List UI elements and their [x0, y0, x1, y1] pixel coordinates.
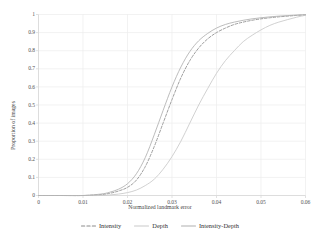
legend-line-swatch [81, 223, 96, 229]
y-tick-label: 0 [12, 192, 35, 198]
y-tick-label: 0.1 [12, 174, 35, 180]
legend-line-swatch [134, 223, 149, 229]
legend-label: Intensity [99, 222, 121, 229]
y-tick-label: 0.6 [12, 84, 35, 90]
chart-legend: IntensityDepthIntensity-Depth [0, 222, 320, 229]
legend-item-intensity[interactable]: Intensity [81, 222, 121, 229]
x-axis-title: Normalized landmark error [0, 204, 320, 210]
axis-tick-marks [36, 15, 306, 199]
y-tick-label: 0.9 [12, 29, 35, 35]
legend-item-intensity-depth[interactable]: Intensity-Depth [181, 222, 239, 229]
y-axis-title: Proportion of images [10, 101, 16, 150]
legend-item-depth[interactable]: Depth [134, 222, 168, 229]
chart-container: 00.10.20.30.40.50.60.70.80.91 00.010.020… [0, 0, 320, 242]
legend-line-swatch [181, 223, 196, 229]
legend-label: Depth [152, 222, 168, 229]
legend-label: Intensity-Depth [199, 222, 239, 229]
y-tick-label: 0.2 [12, 156, 35, 162]
y-tick-label: 0.7 [12, 65, 35, 71]
y-tick-label: 0.8 [12, 47, 35, 53]
y-tick-label: 1 [12, 11, 35, 17]
